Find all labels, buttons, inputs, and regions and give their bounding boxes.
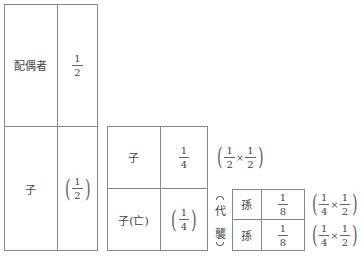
parenthesized-fraction: ( 1 4 ) [169,207,198,232]
fraction: 1 2 [340,192,350,217]
calc-grandchild-2: ( 1 4 × 1 2 ) [305,219,364,251]
share-grandchild-1: 1 8 [261,189,305,219]
times-sign: × [236,152,244,163]
substitution-label: 代 襲 [213,196,227,246]
heir-label: 子 [128,149,139,165]
heir-label: 孫 [241,196,252,212]
fraction: 1 8 [278,192,288,217]
fraction: 1 4 [319,223,329,248]
heir-child: 子 [4,126,57,251]
heir-label: 子 [25,181,36,197]
heir-grandchild-2: 孫 [232,219,261,251]
share-spouse: 1 2 [57,4,98,126]
share-child-living: 1 4 [160,126,208,188]
heir-label: 配偶者 [14,57,47,73]
fraction: 1 8 [278,223,288,248]
times-sign: × [330,199,338,210]
heir-spouse: 配偶者 [4,4,57,126]
calculation: ( 1 2 × 1 2 ) [215,145,265,170]
fraction: 1 2 [72,176,82,201]
parenthesized-fraction: ( 1 2 ) [63,176,92,201]
share-child-deceased: ( 1 4 ) [160,188,208,251]
fraction: 1 4 [179,207,189,232]
share-child: ( 1 2 ) [57,126,98,251]
fraction: 1 4 [179,145,189,170]
fraction: 1 4 [319,192,329,217]
fraction: 1 2 [224,145,234,170]
fraction: 1 2 [245,145,255,170]
brace-top [216,196,224,200]
brace-bottom [216,242,224,246]
calc-child: ( 1 2 × 1 2 ) [209,140,271,174]
heir-label: 子(亡) [118,212,149,228]
heir-label: 孫 [241,227,252,243]
fraction: 1 2 [72,53,82,78]
times-sign: × [330,230,338,241]
heir-child-deceased: 子(亡) [107,188,160,251]
calculation: ( 1 4 × 1 2 ) [310,192,360,217]
calculation: ( 1 4 × 1 2 ) [310,223,360,248]
calc-grandchild-1: ( 1 4 × 1 2 ) [305,189,364,219]
heir-grandchild-1: 孫 [232,189,261,219]
share-grandchild-2: 1 8 [261,219,305,251]
fraction: 1 2 [340,223,350,248]
heir-child-living: 子 [107,126,160,188]
